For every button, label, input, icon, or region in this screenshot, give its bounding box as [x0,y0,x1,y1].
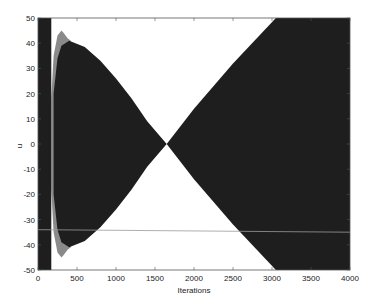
y-tick-label: -20 [23,190,35,199]
y-tick-label: 50 [26,14,35,23]
y-tick-label: -10 [23,165,35,174]
y-tick-label: 0 [31,140,36,149]
x-tick-label: 2500 [224,274,242,283]
x-tick-label: 3500 [302,274,320,283]
y-tick-label: 30 [26,64,35,73]
bifurcation-chart: 05001000150020002500300035004000-50-40-3… [0,0,377,305]
y-tick-label: 20 [26,90,35,99]
plot-area [38,18,350,270]
y-tick-label: -50 [23,266,35,275]
x-axis-label: Iterations [178,286,211,295]
y-tick-label: 10 [26,115,35,124]
y-axis-label: u [15,144,24,148]
x-tick-label: 2000 [185,274,203,283]
x-tick-label: 1000 [107,274,125,283]
dark-envelope [54,41,167,248]
y-tick-label: 40 [26,39,35,48]
y-tick-label: -30 [23,216,35,225]
x-tick-label: 0 [36,274,41,283]
x-tick-label: 1500 [146,274,164,283]
x-tick-label: 3000 [263,274,281,283]
x-tick-label: 4000 [341,274,359,283]
x-tick-label: 500 [70,274,84,283]
y-tick-label: -40 [23,241,35,250]
